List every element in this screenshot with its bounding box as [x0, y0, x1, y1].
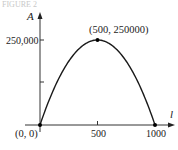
- y-axis-label: A: [26, 10, 34, 22]
- x-tick-label-1000: 1000: [146, 128, 166, 139]
- y-tick-label-250000: 250,000: [6, 35, 39, 46]
- x-tick-label-500: 500: [91, 128, 106, 139]
- parabola-curve: [40, 40, 155, 125]
- x-axis-label: l: [170, 108, 173, 120]
- origin-label: (0, 0): [15, 128, 38, 140]
- y-axis-arrow-icon: [38, 12, 43, 19]
- figure-caption: FIGURE 2: [2, 0, 37, 9]
- point-origin: [38, 123, 42, 127]
- chart: FIGURE 2 A l 250,000 500 1000 (0, 0) (50…: [0, 0, 178, 150]
- x-axis-arrow-icon: [168, 123, 175, 128]
- point-1000: [153, 123, 157, 127]
- point-vertex: [96, 38, 100, 42]
- vertex-label: (500, 250000): [89, 24, 149, 36]
